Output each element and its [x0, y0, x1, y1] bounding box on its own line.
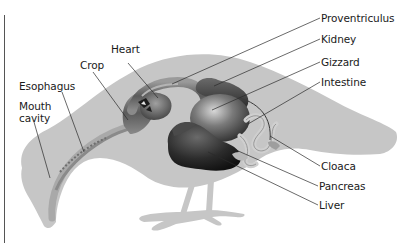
label-heart: Heart — [111, 43, 140, 55]
label-crop: Crop — [80, 59, 104, 71]
label-cloaca: Cloaca — [321, 160, 356, 172]
leader-pancreas — [236, 150, 318, 186]
label-pancreas: Pancreas — [319, 180, 365, 192]
label-mouth-cavity: Mouth cavity — [19, 100, 59, 124]
bird-digestive-diagram: Proventriculus Kidney Gizzard Intestine … — [0, 0, 400, 248]
label-gizzard: Gizzard — [321, 56, 360, 68]
label-proventriculus: Proventriculus — [321, 12, 394, 24]
label-esophagus: Esophagus — [19, 80, 75, 92]
bird-feet — [139, 210, 244, 231]
label-kidney: Kidney — [321, 33, 356, 45]
bird-leg-right — [206, 180, 214, 212]
label-intestine: Intestine — [321, 76, 366, 88]
label-liver: Liver — [319, 199, 344, 211]
